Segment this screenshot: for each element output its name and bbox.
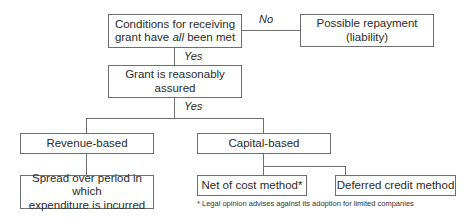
edge-label-yes-1: Yes (184, 50, 202, 62)
node-conditions-line2-pre: grant have (115, 31, 173, 43)
edge-label-yes-2: Yes (184, 100, 202, 112)
connector-to-deferred (345, 166, 346, 175)
node-repayment-line1: Possible repayment (317, 17, 418, 31)
node-conditions-met: Conditions for receiving grant have all … (108, 14, 242, 48)
node-spread-line2: expenditure is incurred (21, 199, 153, 213)
connector-split-to-revenue (86, 118, 87, 133)
connector-capital-down (263, 153, 264, 166)
footnote: * Legal opinion advises against its adop… (197, 199, 414, 208)
node-conditions-line1: Conditions for receiving (115, 18, 235, 32)
node-deferred-credit-method: Deferred credit method (335, 175, 456, 196)
node-spread-line1: Spread over period in which (21, 172, 153, 199)
connector-assured-to-split (174, 97, 175, 118)
connector-conditions-to-assured (174, 47, 175, 65)
node-assured-line1: Grant is reasonably (125, 68, 225, 82)
node-revenue-based: Revenue-based (20, 133, 154, 154)
node-repayment-line2: (liability) (317, 31, 418, 45)
connector-to-net-cost (263, 166, 264, 175)
connector-split-to-capital (263, 118, 264, 133)
node-reasonably-assured: Grant is reasonably assured (108, 65, 242, 98)
node-spread-over-period: Spread over period in which expenditure … (20, 175, 154, 209)
node-conditions-emphasis: all (172, 31, 184, 43)
node-possible-repayment: Possible repayment (liability) (300, 14, 434, 47)
connector-capital-horizontal (263, 166, 346, 167)
node-conditions-line2-post: been met (184, 31, 235, 43)
connector-split-horizontal (86, 118, 264, 119)
node-conditions-line2: grant have all been met (115, 31, 235, 45)
connector-conditions-to-repayment (241, 30, 300, 31)
node-capital-based: Capital-based (197, 133, 331, 154)
node-assured-line2: assured (125, 82, 225, 96)
edge-label-no: No (259, 13, 273, 25)
node-net-of-cost-method: Net of cost method* (197, 175, 307, 196)
